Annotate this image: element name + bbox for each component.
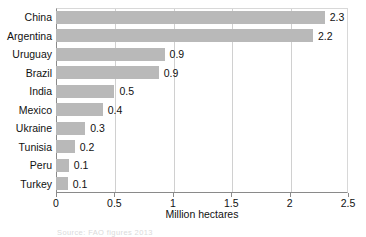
source-note: Source: FAO figures 2013 xyxy=(57,228,237,237)
x-axis-title: Million hectares xyxy=(56,209,348,220)
bar-mexico xyxy=(56,103,103,116)
bar-value-label-india: 0.5 xyxy=(119,86,134,97)
category-label-peru: Peru xyxy=(30,156,52,175)
bar-row: 2.2 xyxy=(56,27,348,46)
category-label-ukraine: Ukraine xyxy=(16,119,52,138)
bar-row: 0.5 xyxy=(56,82,348,101)
bar-turkey xyxy=(56,177,68,190)
bar-india xyxy=(56,85,114,98)
category-label-brazil: Brazil xyxy=(26,64,52,83)
x-tick-label-2: 2 xyxy=(287,198,293,209)
bar-peru xyxy=(56,159,69,172)
bar-uruguay xyxy=(56,48,165,61)
bar-row: 0.1 xyxy=(56,175,348,194)
bar-value-label-turkey: 0.1 xyxy=(73,179,88,190)
x-tick-label-2.5: 2.5 xyxy=(341,198,356,209)
category-label-mexico: Mexico xyxy=(19,101,52,120)
x-tick-label-0.5: 0.5 xyxy=(107,198,122,209)
x-tick-label-1.5: 1.5 xyxy=(224,198,239,209)
bar-value-label-tunisia: 0.2 xyxy=(80,142,95,153)
category-label-uruguay: Uruguay xyxy=(12,45,52,64)
bar-value-label-china: 2.3 xyxy=(330,12,345,23)
bar-row: 0.3 xyxy=(56,119,348,138)
bar-row: 0.2 xyxy=(56,138,348,157)
category-label-china: China xyxy=(25,8,52,27)
bar-china xyxy=(56,11,325,24)
category-label-argentina: Argentina xyxy=(7,27,52,46)
bar-row: 0.9 xyxy=(56,45,348,64)
bar-value-label-argentina: 2.2 xyxy=(318,31,333,42)
bar-brazil xyxy=(56,66,159,79)
category-label-tunisia: Tunisia xyxy=(19,138,52,157)
x-tick-label-1: 1 xyxy=(170,198,176,209)
category-label-turkey: Turkey xyxy=(20,175,52,194)
bar-chart-figure: ChinaArgentinaUruguayBrazilIndiaMexicoUk… xyxy=(0,0,366,237)
bar-ukraine xyxy=(56,122,85,135)
bar-row: 2.3 xyxy=(56,8,348,27)
bar-row: 0.1 xyxy=(56,156,348,175)
x-tick-label-0: 0 xyxy=(53,198,59,209)
bar-value-label-brazil: 0.9 xyxy=(164,68,179,79)
bar-tunisia xyxy=(56,140,75,153)
bar-value-label-peru: 0.1 xyxy=(74,160,89,171)
category-label-india: India xyxy=(29,82,52,101)
bar-value-label-mexico: 0.4 xyxy=(108,105,123,116)
bar-value-label-uruguay: 0.9 xyxy=(170,49,185,60)
bars-layer: 2.32.20.90.90.50.40.30.20.10.1 xyxy=(56,8,348,193)
y-axis-category-labels: ChinaArgentinaUruguayBrazilIndiaMexicoUk… xyxy=(0,8,52,193)
bar-row: 0.9 xyxy=(56,64,348,83)
bar-argentina xyxy=(56,29,313,42)
bar-value-label-ukraine: 0.3 xyxy=(90,123,105,134)
bar-row: 0.4 xyxy=(56,101,348,120)
